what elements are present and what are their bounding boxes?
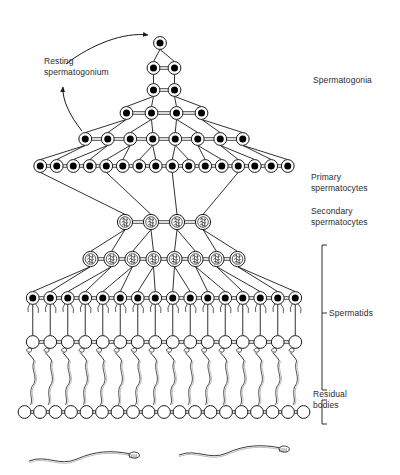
- cell-secondary_spermatocytes: [230, 251, 245, 266]
- cell-elongating_spermatids: [79, 336, 92, 349]
- cell-elongating_spermatids: [289, 336, 302, 349]
- label-residual-bodies: Residual bodies: [313, 389, 347, 410]
- cell-elongating_spermatids: [114, 336, 127, 349]
- cell-spermatogonia: [120, 107, 133, 120]
- cell-elongating_spermatids: [61, 336, 74, 349]
- cell-secondary_spermatocytes: [104, 251, 119, 266]
- cell-residual_bodies: [204, 406, 217, 419]
- label-secondary-spermatocytes: Secondary spermatocytes: [311, 206, 368, 227]
- cell-elongating_spermatids: [236, 336, 249, 349]
- cell-round_spermatids: [184, 292, 197, 305]
- cell-residual_bodies: [158, 406, 171, 419]
- cell-round_spermatids: [219, 292, 232, 305]
- cell-spermatogonia: [133, 160, 146, 173]
- cell-elongating_spermatids: [96, 336, 109, 349]
- sperm-tail: [179, 446, 281, 456]
- cell-spermatogonia: [146, 133, 159, 146]
- bracket-spermatids: [322, 245, 327, 390]
- cell-spermatogonia: [170, 107, 183, 120]
- cell-round_spermatids: [254, 292, 267, 305]
- cell-spermatogonia: [147, 62, 160, 75]
- cell-spermatogonia: [195, 107, 208, 120]
- cell-spermatogonia: [34, 160, 47, 173]
- cell-spermatogonia: [154, 37, 167, 50]
- cell-spermatogonia: [215, 160, 228, 173]
- cell-residual_bodies: [34, 406, 47, 419]
- cell-elongating_spermatids: [271, 336, 284, 349]
- arrow-cycle-return: [63, 87, 82, 131]
- cell-elongating_spermatids: [166, 336, 179, 349]
- cell-spermatogonia: [281, 160, 294, 173]
- label-spermatids: Spermatids: [329, 308, 373, 319]
- cell-round_spermatids: [79, 292, 92, 305]
- cell-spermatogonia: [100, 160, 113, 173]
- cell-primary_spermatocytes: [143, 214, 158, 229]
- cell-spermatogonia: [79, 133, 92, 146]
- cell-secondary_spermatocytes: [125, 251, 140, 266]
- cell-round_spermatids: [44, 292, 57, 305]
- cell-elongating_spermatids: [254, 336, 267, 349]
- cell-primary_spermatocytes: [195, 214, 210, 229]
- cell-residual_bodies: [189, 406, 202, 419]
- cell-spermatogonia: [214, 133, 227, 146]
- cell-residual_bodies: [251, 406, 264, 419]
- free-spermatozoa: [29, 446, 289, 464]
- cell-round_spermatids: [271, 292, 284, 305]
- cell-residual_bodies: [297, 406, 310, 419]
- cell-primary_spermatocytes: [169, 214, 184, 229]
- cell-spermatogonia: [168, 84, 181, 97]
- sperm-tail: [29, 452, 131, 462]
- cell-elongating_spermatids: [131, 336, 144, 349]
- cell-residual_bodies: [18, 406, 31, 419]
- cell-primary_spermatocytes: [117, 214, 132, 229]
- cell-elongating_spermatids: [219, 336, 232, 349]
- cell-secondary_spermatocytes: [209, 251, 224, 266]
- cell-spermatogonia: [169, 133, 182, 146]
- cell-spermatogonia: [116, 160, 129, 173]
- cell-spermatogonia: [168, 62, 181, 75]
- cell-lineage-tree: [18, 37, 310, 419]
- cell-round_spermatids: [26, 292, 39, 305]
- cell-spermatogonia: [149, 160, 162, 173]
- cell-spermatogonia: [236, 133, 249, 146]
- cell-spermatogonia: [147, 84, 160, 97]
- cell-round_spermatids: [131, 292, 144, 305]
- cell-round_spermatids: [201, 292, 214, 305]
- label-primary-spermatocytes: Primary spermatocytes: [311, 172, 368, 193]
- cell-spermatogonia: [232, 160, 245, 173]
- cell-round_spermatids: [149, 292, 162, 305]
- cell-elongating_spermatids: [201, 336, 214, 349]
- cell-secondary_spermatocytes: [83, 251, 98, 266]
- cell-elongating_spermatids: [44, 336, 57, 349]
- cell-residual_bodies: [127, 406, 140, 419]
- cell-secondary_spermatocytes: [167, 251, 182, 266]
- cell-residual_bodies: [142, 406, 155, 419]
- cell-spermatogonia: [50, 160, 63, 173]
- cell-residual_bodies: [49, 406, 62, 419]
- cell-residual_bodies: [111, 406, 124, 419]
- cell-elongating_spermatids: [26, 336, 39, 349]
- cell-elongating_spermatids: [149, 336, 162, 349]
- cell-spermatogonia: [182, 160, 195, 173]
- label-spermatogonia: Spermatogonia: [313, 75, 372, 86]
- cell-spermatogonia: [101, 133, 114, 146]
- cell-secondary_spermatocytes: [188, 251, 203, 266]
- cycle-arrows: [63, 35, 148, 131]
- cell-round_spermatids: [236, 292, 249, 305]
- cell-elongating_spermatids: [184, 336, 197, 349]
- cell-spermatogonia: [265, 160, 278, 173]
- cell-round_spermatids: [96, 292, 109, 305]
- cell-secondary_spermatocytes: [146, 251, 161, 266]
- cell-residual_bodies: [235, 406, 248, 419]
- cell-round_spermatids: [61, 292, 74, 305]
- cell-round_spermatids: [114, 292, 127, 305]
- cell-spermatogonia: [248, 160, 261, 173]
- cell-residual_bodies: [65, 406, 78, 419]
- cell-residual_bodies: [173, 406, 186, 419]
- cell-round_spermatids: [289, 292, 302, 305]
- cell-residual_bodies: [266, 406, 279, 419]
- cell-spermatogonia: [191, 133, 204, 146]
- cell-spermatogonia: [83, 160, 96, 173]
- cell-spermatogonia: [124, 133, 137, 146]
- label-resting-spermatogonium: Resting spermatogonium: [44, 56, 109, 77]
